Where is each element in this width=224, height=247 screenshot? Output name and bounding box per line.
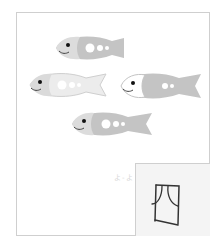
fish-icon <box>52 33 138 63</box>
hint-text: よ-よ <box>114 172 134 182</box>
fish-icon <box>68 109 154 139</box>
answer-box[interactable] <box>135 163 210 236</box>
handwritten-answer-icon <box>136 164 211 237</box>
fish-icon <box>117 70 203 102</box>
fish-icon <box>26 70 112 100</box>
